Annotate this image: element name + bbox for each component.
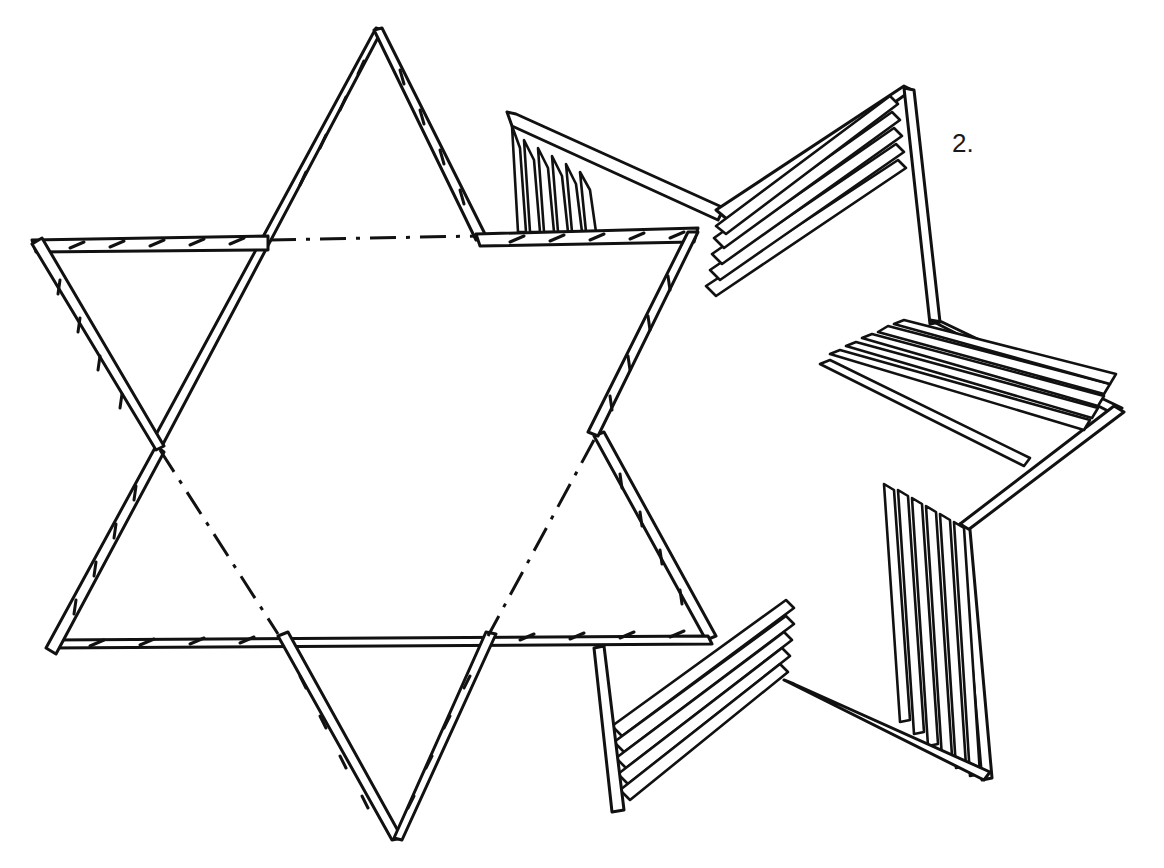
dashed-line-bottom-right [488,440,594,636]
dashed-line-bottom-left [160,450,278,634]
dashed-line-top [270,236,478,240]
star-diagram [0,0,1164,868]
step-number-label: 2. [952,128,974,159]
